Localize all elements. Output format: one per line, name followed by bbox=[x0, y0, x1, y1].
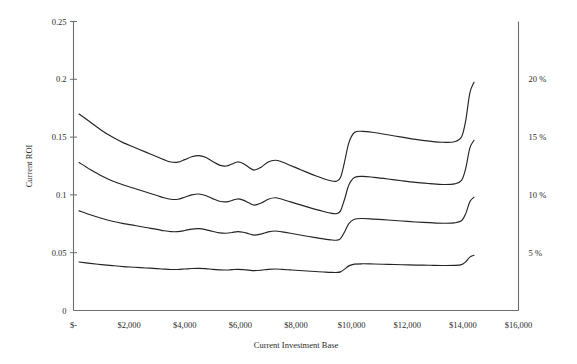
y-axis-tick-label: 0.15 bbox=[52, 132, 67, 142]
x-axis-tick-label: $14,000 bbox=[449, 320, 477, 330]
x-axis-tick-label: $12,000 bbox=[393, 320, 421, 330]
series-line-series-1 bbox=[79, 82, 474, 181]
y-axis-tick-label: 0.2 bbox=[56, 74, 67, 84]
y-axis-left-labels: 00.050.10.150.20.25 bbox=[52, 17, 67, 316]
x-axis-tick-label: $8,000 bbox=[284, 320, 307, 330]
y-axis-tick-label: 0 bbox=[62, 306, 66, 316]
x-axis-tick-label: $10,000 bbox=[338, 320, 366, 330]
y-axis-tick-label: 0.25 bbox=[52, 17, 67, 27]
y-axis-right-tick-label: 5 % bbox=[529, 248, 542, 258]
chart-canvas: 00.050.10.150.20.25 5 %10 %15 %20 % $-$2… bbox=[0, 0, 577, 364]
x-axis-tick-label: $2,000 bbox=[117, 320, 140, 330]
y-axis-right-tick-label: 20 % bbox=[529, 74, 547, 84]
x-axis-labels: $-$2,000$4,000$6,000$8,000$10,000$12,000… bbox=[70, 320, 532, 330]
roi-line-chart: 00.050.10.150.20.25 5 %10 %15 %20 % $-$2… bbox=[0, 0, 577, 364]
y-axis-tick-label: 0.1 bbox=[56, 190, 67, 200]
y-axis-title: Current ROI bbox=[24, 144, 34, 187]
series-line-series-2 bbox=[79, 140, 474, 213]
x-axis-title: Current Investment Base bbox=[254, 340, 339, 350]
y-axis-tick-label: 0.05 bbox=[52, 248, 67, 258]
series-line-series-3 bbox=[79, 197, 474, 240]
series-lines bbox=[79, 82, 474, 272]
x-axis-tick-label: $16,000 bbox=[505, 320, 533, 330]
y-axis-right-labels: 5 %10 %15 %20 % bbox=[529, 74, 547, 257]
x-axis-tick-label: $- bbox=[70, 320, 77, 330]
y-axis-right-tick-label: 10 % bbox=[529, 190, 547, 200]
y-axis-right-tick-label: 15 % bbox=[529, 132, 547, 142]
x-axis-tick-label: $4,000 bbox=[173, 320, 196, 330]
series-line-series-4 bbox=[79, 255, 474, 272]
x-axis-tick-label: $6,000 bbox=[229, 320, 252, 330]
